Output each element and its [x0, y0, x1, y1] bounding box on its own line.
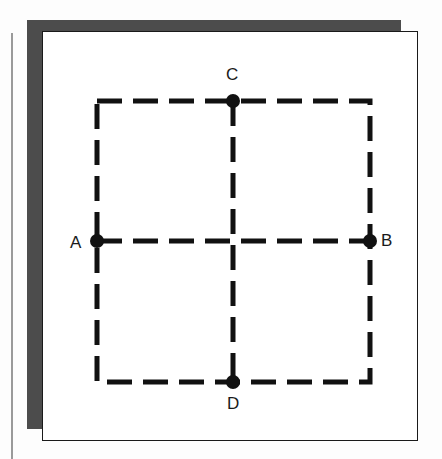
geometry-figure — [0, 0, 442, 459]
point-label-b: B — [381, 232, 392, 249]
point-label-d: D — [227, 395, 239, 412]
point-c-dot — [226, 94, 240, 108]
point-b-dot — [363, 234, 377, 248]
point-d-dot — [226, 375, 240, 389]
point-label-a: A — [70, 234, 81, 251]
point-a-dot — [90, 234, 104, 248]
figure-stage: A B C D — [0, 0, 442, 459]
point-label-c: C — [226, 66, 238, 83]
